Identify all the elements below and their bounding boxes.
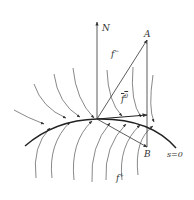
label-f-plus: f+ xyxy=(116,172,124,183)
diagram-canvas xyxy=(0,0,194,200)
label-f-minus: f− xyxy=(111,48,119,59)
label-a: A xyxy=(144,30,151,39)
label-s-zero: s=0 xyxy=(167,151,183,159)
switching-surface-curve xyxy=(25,119,176,148)
label-f-zero: f0 xyxy=(121,93,128,104)
vector-to-b xyxy=(97,119,147,147)
lower-trajectories xyxy=(35,121,153,182)
upper-trajectories xyxy=(14,67,154,124)
label-b: B xyxy=(144,150,151,159)
vector-to-a xyxy=(97,40,147,119)
label-n: N xyxy=(102,24,110,33)
